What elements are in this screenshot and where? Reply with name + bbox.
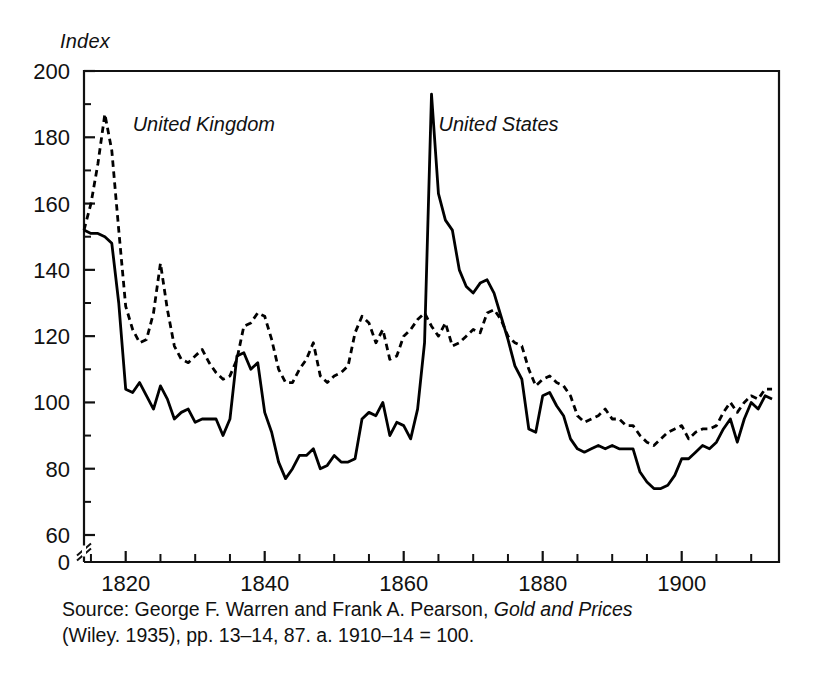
y-axis-tick-label: 100 — [33, 390, 70, 415]
series-annotation-united-states: United States — [438, 113, 558, 135]
y-axis-tick-label: 60 — [46, 523, 70, 548]
series-line-united-kingdom — [84, 114, 772, 445]
source-line-2: (Wiley. 1935), pp. 13–14, 87. a. 1910–14… — [62, 624, 474, 646]
source-book-title: Gold and Prices — [494, 598, 633, 620]
y-axis-tick-label: 80 — [46, 457, 70, 482]
x-axis-tick-label: 1880 — [518, 571, 567, 595]
series-line-united-states — [84, 94, 772, 488]
source-note: Source: George F. Warren and Frank A. Pe… — [62, 596, 802, 648]
y-axis-tick-label: 160 — [33, 192, 70, 217]
x-axis-tick-label: 1900 — [657, 571, 706, 595]
source-line-1-prefix: Source: George F. Warren and Frank A. Pe… — [62, 598, 494, 620]
y-axis-tick-label: 200 — [33, 59, 70, 84]
chart-figure: Index 2001801601401201008060018201840186… — [0, 0, 814, 681]
chart-plot-area: 2001801601401201008060018201840186018801… — [0, 0, 814, 595]
y-axis-tick-label: 140 — [33, 258, 70, 283]
y-axis-tick-label: 180 — [33, 125, 70, 150]
plot-frame — [84, 71, 779, 562]
x-axis-tick-label: 1820 — [101, 571, 150, 595]
y-axis-break-gap — [82, 546, 86, 557]
series-annotation-united-kingdom: United Kingdom — [133, 113, 275, 135]
y-axis-tick-label-zero: 0 — [58, 550, 70, 575]
x-axis-tick-label: 1860 — [379, 571, 428, 595]
y-axis-tick-label: 120 — [33, 324, 70, 349]
x-axis-tick-label: 1840 — [240, 571, 289, 595]
